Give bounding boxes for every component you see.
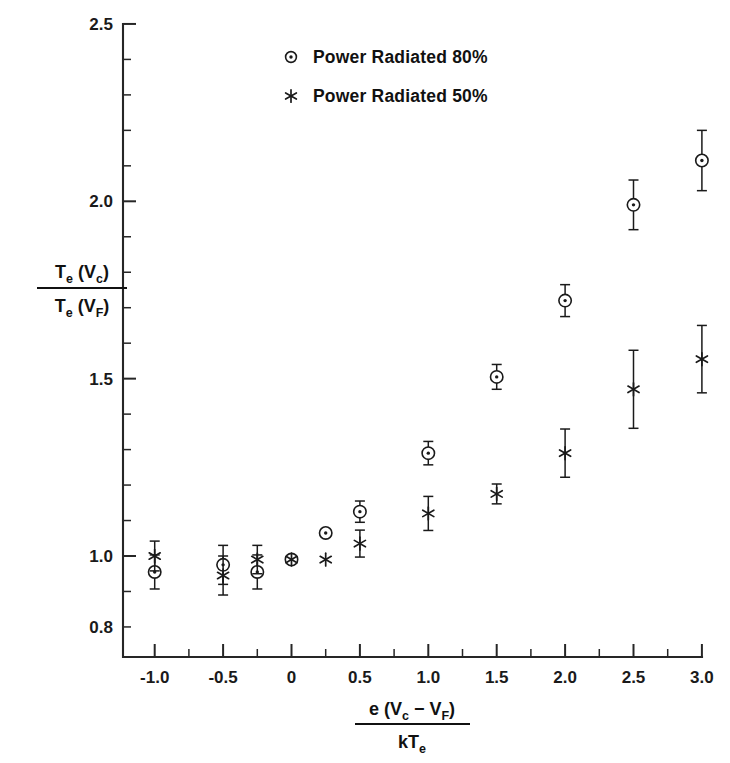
y-axis-title-numerator: Te (Vc)	[55, 262, 109, 286]
legend-label: Power Radiated 50%	[313, 86, 488, 106]
marker-asterisk	[286, 90, 297, 102]
x-axis-tick-labels: -1.0-0.500.51.01.52.02.53.0	[140, 668, 714, 687]
x-axis-title-numerator: e (Vc − VF)	[369, 699, 455, 723]
y-axis-title-denominator: Te (VF)	[55, 296, 110, 320]
marker-centre-dot	[358, 510, 361, 513]
marker-circle-dot	[696, 154, 708, 166]
marker-centre-dot	[563, 299, 566, 302]
x-tick-label: -1.0	[140, 668, 169, 687]
x-tick-label: 0.5	[348, 668, 372, 687]
y-axis-title: Te (Vc) Te (VF)	[37, 262, 127, 320]
marker-circle-dot	[286, 52, 297, 63]
x-tick-label: 1.0	[416, 668, 440, 687]
y-tick-label: 2.5	[89, 15, 113, 34]
marker-circle-dot	[320, 527, 332, 539]
marker-centre-dot	[632, 203, 635, 206]
marker-asterisk	[560, 447, 571, 460]
x-tick-label: 0	[287, 668, 296, 687]
y-tick-label: 1.5	[89, 370, 113, 389]
legend-label: Power Radiated 80%	[313, 47, 488, 67]
x-tick-label: 2.5	[622, 668, 646, 687]
x-axis-title: e (Vc − VF) kTe	[355, 699, 470, 756]
marker-centre-dot	[324, 531, 327, 534]
y-axis-ticks	[123, 24, 136, 627]
scatter-plot-canvas: 0.81.01.52.02.5 -1.0-0.500.51.01.52.02.5…	[0, 0, 730, 763]
marker-asterisk	[149, 550, 160, 563]
marker-centre-dot	[289, 55, 292, 58]
marker-circle-dot	[491, 371, 503, 383]
marker-centre-dot	[700, 159, 703, 162]
marker-centre-dot	[427, 451, 430, 454]
marker-centre-dot	[495, 375, 498, 378]
figure-root: 0.81.01.52.02.5 -1.0-0.500.51.01.52.02.5…	[0, 0, 730, 763]
y-tick-label: 2.0	[89, 192, 113, 211]
marker-asterisk	[320, 553, 331, 566]
x-tick-label: 2.0	[553, 668, 577, 687]
marker-circle-dot	[559, 294, 571, 306]
marker-asterisk	[491, 488, 502, 501]
y-tick-label: 1.0	[89, 547, 113, 566]
x-tick-label: 3.0	[690, 668, 714, 687]
marker-asterisk	[218, 569, 229, 582]
marker-asterisk	[423, 507, 434, 520]
y-tick-label: 0.8	[89, 618, 113, 637]
axes-group	[123, 24, 702, 657]
x-tick-label: -0.5	[208, 668, 237, 687]
legend: Power Radiated 80%Power Radiated 50%	[286, 47, 488, 106]
legend-item-2: Power Radiated 50%	[286, 86, 488, 106]
marker-asterisk	[696, 353, 707, 366]
x-axis-ticks	[155, 644, 702, 657]
x-axis-title-denominator: kTe	[398, 732, 426, 756]
x-tick-label: 1.5	[485, 668, 509, 687]
marker-circle-dot	[354, 505, 366, 517]
axis-lines	[123, 24, 702, 657]
marker-circle-dot	[422, 447, 434, 459]
marker-asterisk	[628, 383, 639, 396]
marker-circle-dot	[627, 199, 639, 211]
legend-item-1: Power Radiated 80%	[286, 47, 488, 67]
y-axis-tick-labels: 0.81.01.52.02.5	[89, 15, 113, 637]
data-series-layer	[149, 130, 709, 595]
marker-asterisk	[354, 537, 365, 550]
